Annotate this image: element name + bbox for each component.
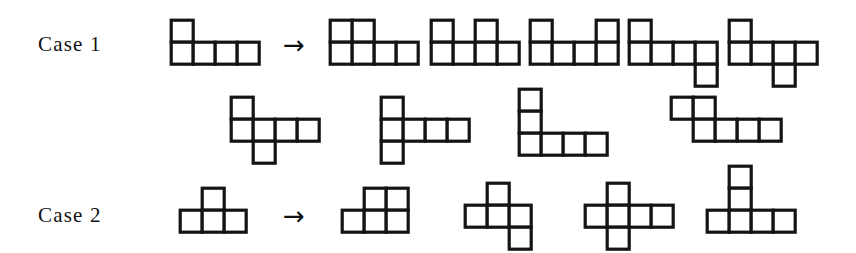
polyomino-cell [330,20,352,42]
polyomino-cell [487,205,509,227]
polyomino-cell [171,42,193,64]
polyomino-cell [552,42,574,64]
polyomino-cell [352,42,374,64]
polyomino-cell [596,42,618,64]
polyomino-cell [596,20,618,42]
polyomino-cell [330,42,352,64]
polyomino-cell [530,42,552,64]
polyomino-cell [651,205,673,227]
polyomino-cell [629,20,651,42]
polyomino-cell [519,133,541,155]
polyomino-cell [751,42,773,64]
polyomino-cell [224,210,246,232]
case-1-label: Case 1 [38,32,102,57]
case-1-arrow-icon: → [283,32,305,58]
case-1-result-1 [327,17,421,67]
case-2-label: Case 2 [38,203,102,228]
polyomino-cell [431,20,453,42]
polyomino-cell [475,20,497,42]
polyomino-cell [729,20,751,42]
case-1-result-4 [626,17,720,89]
case-2-source-polyomino [177,185,249,235]
polyomino-cell [386,188,408,210]
polyomino-cell [707,210,729,232]
polyomino-cell [519,111,541,133]
polyomino-cell [773,64,795,86]
figure-canvas: Case 1→Case 2→ [0,0,856,253]
polyomino-cell [447,119,469,141]
polyomino-cell [475,42,497,64]
case-2-result-3 [582,180,676,252]
polyomino-cell [374,42,396,64]
case-2-arrow-icon: → [283,203,305,229]
polyomino-cell [563,133,585,155]
polyomino-cell [364,188,386,210]
polyomino-cell [607,183,629,205]
polyomino-cell [425,119,447,141]
polyomino-cell [381,97,403,119]
polyomino-cell [237,42,259,64]
polyomino-cell [352,20,374,42]
polyomino-cell [695,64,717,86]
polyomino-cell [607,205,629,227]
case-1-result-6 [228,94,322,166]
polyomino-cell [180,210,202,232]
polyomino-cell [773,210,795,232]
polyomino-cell [729,166,751,188]
polyomino-cell [695,42,717,64]
polyomino-cell [693,119,715,141]
case-2-result-2 [462,180,534,252]
polyomino-cell [193,42,215,64]
polyomino-cell [759,119,781,141]
polyomino-cell [342,210,364,232]
case-1-result-9 [668,94,784,144]
polyomino-cell [381,141,403,163]
case-1-result-2 [428,17,522,67]
polyomino-cell [715,119,737,141]
polyomino-cell [607,227,629,249]
polyomino-cell [585,133,607,155]
case-2-result-4 [704,163,798,235]
polyomino-cell [453,42,475,64]
polyomino-cell [381,119,403,141]
polyomino-cell [386,210,408,232]
polyomino-cell [574,42,596,64]
case-1-result-5 [726,17,820,89]
polyomino-cell [403,119,425,141]
polyomino-cell [651,42,673,64]
polyomino-cell [253,141,275,163]
case-1-result-8 [516,86,610,158]
polyomino-cell [541,133,563,155]
polyomino-cell [202,210,224,232]
polyomino-cell [530,20,552,42]
polyomino-cell [671,97,693,119]
polyomino-cell [231,97,253,119]
polyomino-cell [629,42,651,64]
case-1-source-polyomino [168,17,262,67]
polyomino-cell [487,183,509,205]
case-1-result-7 [378,94,472,166]
polyomino-cell [519,89,541,111]
polyomino-cell [497,42,519,64]
polyomino-cell [509,205,531,227]
polyomino-cell [729,210,751,232]
polyomino-cell [751,210,773,232]
polyomino-cell [509,227,531,249]
polyomino-cell [773,42,795,64]
polyomino-cell [231,119,253,141]
polyomino-cell [364,210,386,232]
polyomino-cell [693,97,715,119]
case-2-result-1 [339,185,411,235]
polyomino-cell [253,119,275,141]
polyomino-cell [729,42,751,64]
polyomino-cell [297,119,319,141]
polyomino-cell [431,42,453,64]
polyomino-cell [275,119,297,141]
polyomino-cell [729,188,751,210]
case-1-result-3 [527,17,621,67]
polyomino-cell [795,42,817,64]
polyomino-cell [629,205,651,227]
polyomino-cell [171,20,193,42]
polyomino-cell [202,188,224,210]
polyomino-cell [396,42,418,64]
